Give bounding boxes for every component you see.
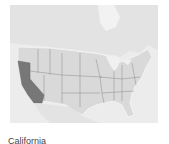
- us-map: [10, 5, 158, 123]
- map-caption: California: [8, 136, 46, 143]
- map-svg: [10, 5, 158, 123]
